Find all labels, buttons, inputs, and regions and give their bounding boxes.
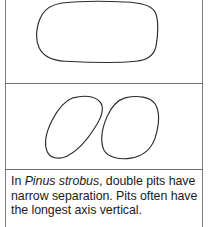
caption-text: In Pinus strobus, double pits have narro… [11, 174, 201, 218]
single-pit-drawing [5, 0, 203, 83]
single-pit-panel [5, 0, 203, 84]
pit-morphology-figure: In Pinus strobus, double pits have narro… [0, 0, 208, 227]
double-pit-panel [5, 84, 203, 170]
single-pit-outline [37, 1, 158, 62]
species-name: Pinus strobus [25, 174, 99, 188]
left-pit-outline [46, 96, 103, 158]
right-pit-outline [102, 97, 159, 159]
caption-line1-prefix: In [11, 174, 25, 188]
double-pit-drawing [5, 84, 203, 169]
caption-line1-suffix: , double pits [99, 174, 165, 188]
caption-panel: In Pinus strobus, double pits have narro… [5, 170, 203, 227]
